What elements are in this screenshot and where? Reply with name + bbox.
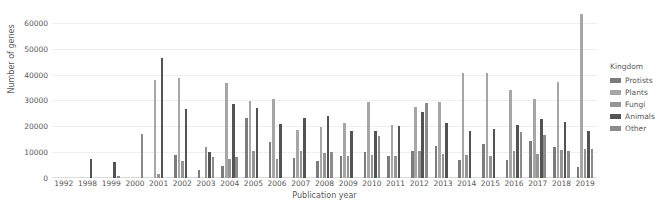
- legend-item-label: Protists: [625, 76, 653, 85]
- bar: [293, 158, 296, 178]
- legend-item-plants[interactable]: Plants: [610, 87, 663, 97]
- bar-group: [56, 10, 73, 178]
- legend-items: ProtistsPlantsFungiAnimalsOther: [610, 75, 663, 133]
- bar-group: [127, 10, 144, 178]
- bar: [90, 159, 93, 178]
- bar-group: [174, 10, 191, 178]
- y-tick-label: 30000: [24, 96, 48, 105]
- legend-item-protists[interactable]: Protists: [610, 75, 663, 85]
- chart-root: Number of genes 010000200003000040000500…: [0, 0, 663, 204]
- bar-group: [340, 10, 357, 178]
- bar: [425, 103, 428, 178]
- x-tick-label: 1998: [78, 179, 97, 188]
- bar: [394, 156, 397, 178]
- legend-item-animals[interactable]: Animals: [610, 111, 663, 121]
- x-tick-label: 2015: [481, 179, 500, 188]
- bar: [205, 147, 208, 178]
- bar: [469, 131, 472, 178]
- bar: [435, 146, 438, 178]
- bar: [489, 156, 492, 178]
- bar-group: [316, 10, 333, 178]
- bar: [458, 160, 461, 178]
- bar: [398, 126, 401, 178]
- bar: [252, 151, 255, 178]
- y-tick-label: 40000: [24, 70, 48, 79]
- bar-group: [506, 10, 523, 178]
- y-tick-label: 60000: [24, 18, 48, 27]
- bar: [296, 130, 299, 178]
- bar-group: [245, 10, 262, 178]
- x-tick-label: 2007: [291, 179, 310, 188]
- x-tick-label: 2019: [576, 179, 595, 188]
- legend-swatch-icon: [610, 102, 621, 107]
- x-tick-label: 2017: [528, 179, 547, 188]
- bar: [154, 80, 157, 178]
- bar-group: [198, 10, 215, 178]
- bar: [256, 108, 259, 178]
- bar: [486, 73, 489, 178]
- bar-group: [150, 10, 167, 178]
- bar: [320, 127, 323, 178]
- bar-group: [458, 10, 475, 178]
- legend-item-label: Animals: [625, 112, 655, 121]
- bar-group: [103, 10, 120, 178]
- bar: [245, 118, 248, 178]
- x-tick-label: 2014: [457, 179, 476, 188]
- bar-group: [411, 10, 428, 178]
- x-axis-ticks: 1992199819992000200120022003200420052006…: [52, 179, 597, 191]
- bar: [157, 174, 160, 178]
- plot-area: [52, 10, 597, 178]
- bar: [564, 122, 567, 178]
- bar: [212, 157, 215, 178]
- legend-item-label: Fungi: [625, 100, 645, 109]
- bar: [387, 156, 390, 178]
- bar: [421, 112, 424, 178]
- bar: [330, 152, 333, 178]
- bar-group: [293, 10, 310, 178]
- legend-item-other[interactable]: Other: [610, 123, 663, 133]
- y-tick-label: 10000: [24, 148, 48, 157]
- bar: [509, 90, 512, 178]
- bar: [374, 131, 377, 178]
- bar: [587, 131, 590, 178]
- bar: [113, 162, 116, 178]
- bar: [411, 151, 414, 178]
- bar-group: [221, 10, 238, 178]
- bar: [249, 101, 252, 178]
- bar: [323, 153, 326, 178]
- x-axis-label: Publication year: [52, 191, 597, 200]
- bar-group: [387, 10, 404, 178]
- bar: [235, 157, 238, 178]
- bar: [445, 123, 448, 178]
- bar: [225, 83, 228, 178]
- bar: [185, 109, 188, 178]
- bar-group: [269, 10, 286, 178]
- legend-swatch-icon: [610, 90, 621, 95]
- bar: [543, 135, 546, 178]
- bar: [520, 132, 523, 178]
- legend-item-fungi[interactable]: Fungi: [610, 99, 663, 109]
- legend-swatch-icon: [610, 78, 621, 83]
- bar: [228, 159, 231, 178]
- bar: [367, 102, 370, 178]
- x-tick-label: 2000: [125, 179, 144, 188]
- bar-group: [529, 10, 546, 178]
- bar: [482, 144, 485, 178]
- bar: [279, 124, 282, 178]
- bar: [465, 155, 468, 178]
- bar: [269, 142, 272, 178]
- bar: [371, 155, 374, 178]
- bar: [316, 161, 319, 178]
- bar: [364, 152, 367, 178]
- bar: [529, 141, 532, 178]
- bar: [343, 123, 346, 178]
- bar: [516, 125, 519, 178]
- chart-title: [0, 0, 663, 8]
- x-tick-label: 2012: [410, 179, 429, 188]
- bar: [462, 73, 465, 178]
- bar: [161, 58, 164, 178]
- bar: [591, 149, 594, 178]
- y-tick-label: 50000: [24, 44, 48, 53]
- bar: [584, 149, 587, 178]
- bar: [391, 125, 394, 178]
